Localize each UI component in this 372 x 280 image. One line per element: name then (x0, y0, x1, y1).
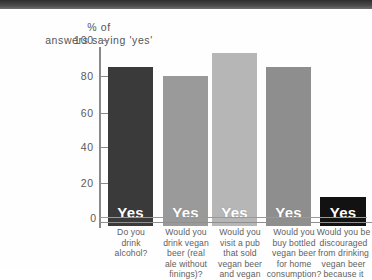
label-line: Do you (103, 227, 159, 238)
bar-would-you-drink-vegan-beer[interactable]: Yes (163, 76, 208, 226)
y-tick-label-40: 40 (60, 141, 94, 153)
bar-would-you-visit-a-pub[interactable]: Yes (212, 53, 257, 226)
y-tick-label-20: 20 (60, 177, 94, 189)
label-line: drink vegan (157, 238, 215, 249)
bar-would-you-buy-bottled-vegan-beer[interactable]: Yes (266, 67, 311, 226)
y-tick-20 (99, 183, 108, 184)
label-line: drink (103, 238, 159, 249)
label-line: ale without (157, 259, 215, 270)
label-line: Would you be (315, 227, 372, 238)
label-line: alcohol? (103, 248, 159, 259)
label-line: Would you (157, 227, 215, 238)
y-tick-label-100: 100 (60, 34, 94, 46)
y-tick-40 (99, 147, 108, 148)
bar-value-label: Yes (172, 204, 198, 221)
label-line: and vegan (211, 269, 269, 280)
label-line: that sold (211, 248, 269, 259)
y-tick-label-60: 60 (60, 107, 94, 119)
label-line: Would you (211, 227, 269, 238)
label-line: beer (real (157, 248, 215, 259)
y-tick-100 (99, 40, 108, 41)
y-tick-60 (99, 113, 108, 114)
label-line: visit a pub (211, 238, 269, 249)
label-line: finings)? (157, 269, 215, 280)
y-axis-line (99, 47, 101, 228)
bar-value-label: Yes (117, 204, 143, 221)
category-label-would-you-visit-a-pub: Would you visit a pub that sold vegan be… (211, 227, 269, 280)
category-separator-rule (99, 222, 372, 223)
category-label-do-you-drink-alcohol: Do you drink alcohol? (103, 227, 159, 259)
page-top-band (0, 0, 372, 9)
bar-value-label: Yes (330, 204, 356, 221)
y-tick-label-0: 0 (62, 212, 96, 224)
category-label-would-you-drink-vegan-beer: Would you drink vegan beer (real ale wit… (157, 227, 215, 280)
bar-value-label: Yes (275, 204, 301, 221)
bar-chart: % of answers saying 'yes' 100 80 60 40 2… (0, 9, 372, 269)
bar-do-you-drink-alcohol[interactable]: Yes (108, 67, 153, 226)
label-line: from drinking (315, 248, 372, 259)
label-line: discouraged (315, 238, 372, 249)
label-line: because it (315, 269, 372, 280)
bar-value-label: Yes (221, 204, 247, 221)
y-tick-80 (99, 76, 108, 77)
category-label-would-you-be-discouraged: Would you be discouraged from drinking v… (315, 227, 372, 280)
label-line: vegan beer (315, 259, 372, 270)
y-tick-label-80: 80 (60, 70, 94, 82)
x-axis-baseline (99, 217, 367, 218)
label-line: vegan beer (211, 259, 269, 270)
plot-region: 100 80 60 40 20 0 Yes Yes Yes Yes Yes Do… (0, 9, 372, 269)
